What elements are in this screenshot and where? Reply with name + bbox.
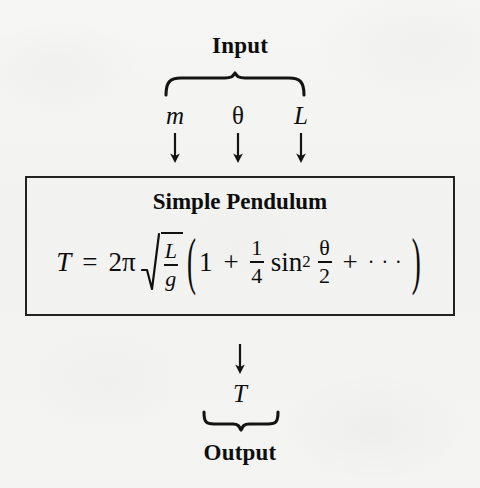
fraction-one-quarter: 1 4 bbox=[250, 237, 264, 287]
fraction-denominator-two: 2 bbox=[318, 265, 331, 287]
model-box: Simple Pendulum T = 2π L g bbox=[25, 176, 455, 316]
formula-open-paren: ( bbox=[187, 230, 196, 293]
input-arrow-m-down-icon bbox=[167, 133, 183, 164]
fraction-numerator-one: 1 bbox=[250, 237, 263, 259]
formula-plus-first: + bbox=[223, 249, 238, 276]
input-variable-L: L bbox=[294, 103, 308, 128]
formula-close-paren: ) bbox=[412, 230, 421, 293]
output-heading-label: Output bbox=[204, 440, 277, 465]
formula-sin-exponent: 2 bbox=[302, 254, 310, 271]
input-arrow-theta-down-icon bbox=[230, 133, 246, 164]
input-arrow-L-down-icon bbox=[293, 133, 309, 164]
formula-lhs-T: T bbox=[56, 249, 71, 276]
output-heading: Output bbox=[0, 440, 480, 466]
period-formula: T = 2π L g ( bbox=[27, 232, 453, 292]
pendulum-block-diagram: Input m θ L Simple Pendulum T bbox=[0, 0, 480, 488]
input-heading-label: Input bbox=[212, 33, 268, 58]
fraction-theta-over-two: θ 2 bbox=[318, 237, 332, 287]
radical-sign-icon bbox=[141, 232, 161, 292]
fraction-numerator-theta: θ bbox=[318, 237, 331, 259]
input-heading: Input bbox=[0, 33, 480, 59]
output-arrow-down-icon bbox=[232, 344, 248, 375]
input-variable-m: m bbox=[166, 103, 184, 128]
formula-radical-L-over-g: L g bbox=[141, 232, 183, 292]
fraction-L-over-g: L g bbox=[164, 240, 178, 290]
output-variable-T: T bbox=[233, 381, 247, 406]
fraction-denominator-g: g bbox=[164, 268, 177, 290]
input-variable-theta: θ bbox=[232, 103, 244, 128]
formula-equals-sign: = bbox=[82, 249, 97, 276]
model-box-title: Simple Pendulum bbox=[27, 189, 453, 215]
fraction-numerator-L: L bbox=[164, 240, 178, 262]
fraction-denominator-four: 4 bbox=[250, 265, 263, 287]
input-overbrace bbox=[163, 72, 307, 96]
formula-term-one: 1 bbox=[199, 249, 213, 276]
formula-sin-function: sin bbox=[271, 249, 303, 276]
radicand: L g bbox=[161, 232, 183, 292]
formula-plus-second: + bbox=[343, 249, 358, 276]
formula-ellipsis: ··· bbox=[365, 252, 409, 272]
output-underbrace bbox=[202, 411, 280, 433]
formula-coefficient-2pi: 2π bbox=[109, 249, 136, 276]
